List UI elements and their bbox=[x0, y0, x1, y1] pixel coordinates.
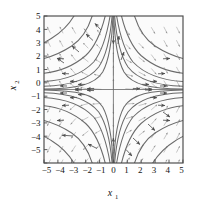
y-tick-label: 5 bbox=[36, 11, 41, 21]
x-tick-label: 4 bbox=[165, 165, 170, 175]
y-tick-label: −5 bbox=[31, 145, 41, 155]
phase-portrait-figure: −5 −4 −3 −2 −1 0 1 2 3 4 5 5 4 3 2 1 0 −… bbox=[0, 0, 200, 206]
x-tick-label: 3 bbox=[152, 165, 157, 175]
x-axis-title-subscript: 1 bbox=[115, 193, 118, 200]
y-tick-label: 3 bbox=[36, 38, 41, 48]
y-tick-label: 1 bbox=[36, 65, 41, 75]
y-tick-label: 0 bbox=[36, 78, 41, 88]
x-tick-label: 0 bbox=[111, 165, 116, 175]
x-tick-label: 2 bbox=[138, 165, 143, 175]
plot-area bbox=[44, 16, 183, 167]
x-tick-label: −3 bbox=[69, 165, 79, 175]
y-tick-label: −1 bbox=[31, 91, 41, 101]
y-tick-label: 4 bbox=[36, 25, 41, 35]
y-tick-label: −4 bbox=[31, 132, 41, 142]
y-tick-label: −3 bbox=[31, 118, 41, 128]
y-tick-label: 2 bbox=[36, 51, 41, 61]
x-tick-label: 5 bbox=[179, 165, 184, 175]
x-axis-title-text: x bbox=[107, 187, 113, 198]
x-tick-label: −2 bbox=[82, 165, 92, 175]
x-tick-label: −5 bbox=[42, 165, 52, 175]
y-axis-title-subscript: 2 bbox=[13, 80, 20, 83]
x-tick-label: 1 bbox=[124, 165, 129, 175]
y-axis-title-text: x bbox=[7, 85, 18, 91]
x-tick-label: −1 bbox=[96, 165, 106, 175]
y-tick-label: −2 bbox=[31, 105, 41, 115]
phase-portrait-svg: −5 −4 −3 −2 −1 0 1 2 3 4 5 5 4 3 2 1 0 −… bbox=[0, 0, 200, 206]
x-tick-label: −4 bbox=[55, 165, 65, 175]
